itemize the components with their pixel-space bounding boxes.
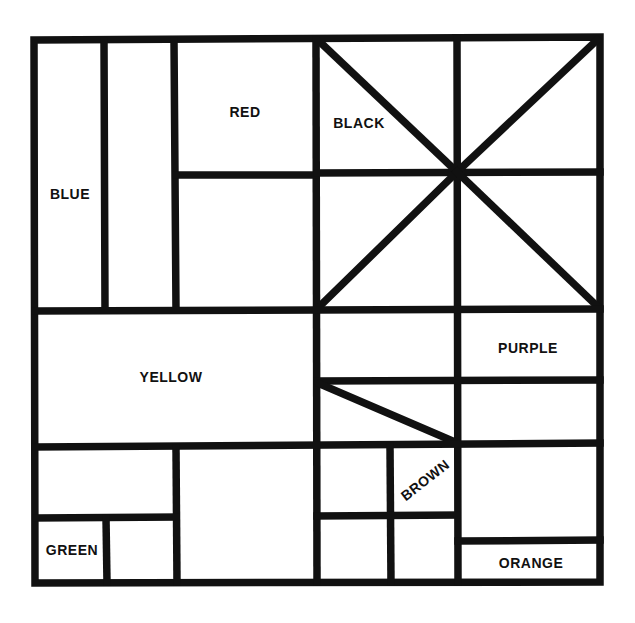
label-orange: ORANGE (499, 555, 563, 571)
label-brown: BROWN (398, 456, 453, 504)
diagonal-line (320, 42, 457, 172)
diagonal-line (320, 384, 455, 442)
divider-line (35, 309, 600, 311)
label-purple: PURPLE (498, 340, 558, 356)
divider-line (458, 540, 600, 541)
label-red: RED (229, 104, 260, 120)
label-blue: BLUE (50, 186, 90, 202)
diagonal-line (320, 172, 457, 306)
diagonal-line (457, 172, 597, 306)
divider-line (104, 41, 105, 310)
divider-line (317, 515, 457, 516)
diagonal-line (457, 40, 597, 172)
divider-line (35, 443, 600, 447)
divider-line (106, 518, 107, 582)
label-black: BLACK (333, 115, 385, 131)
label-yellow: YELLOW (140, 369, 203, 385)
divider-line (317, 380, 600, 381)
label-green: GREEN (46, 542, 98, 558)
region-diagram: BLUE RED BLACK YELLOW PURPLE BROWN GREEN… (0, 0, 635, 623)
